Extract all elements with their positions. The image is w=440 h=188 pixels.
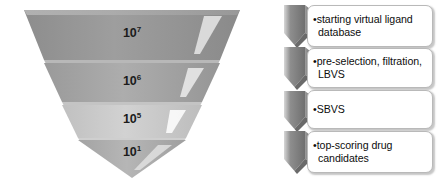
- stage-box-3[interactable]: •SBVS: [307, 90, 433, 129]
- stage-2-line-1: pre-selection,: [317, 55, 380, 67]
- funnel-tier-1-exponent: 7: [137, 25, 141, 34]
- stage-box-2[interactable]: •pre-selection, filtration, LBVS: [307, 48, 433, 88]
- stage-2-text: •pre-selection, filtration, LBVS: [313, 55, 428, 81]
- funnel-tier-3-base: 10: [123, 112, 137, 126]
- funnel-tier-2-label: 106: [123, 75, 141, 88]
- funnel-tier-3-exponent: 5: [137, 111, 141, 120]
- compound-count-funnel: 107 106 105 101: [16, 2, 248, 186]
- stage-3-text: •SBVS: [313, 103, 345, 116]
- stage-4-line-1: top-scoring drug: [317, 139, 393, 151]
- funnel-tier-3-label: 105: [123, 113, 141, 126]
- screening-stage-list: •starting virtual ligand database •pre-s…: [283, 3, 435, 185]
- stage-box-1[interactable]: •starting virtual ligand database: [307, 5, 433, 47]
- stage-box-4[interactable]: •top-scoring drug candidates: [307, 131, 433, 173]
- funnel-tier-4-base: 10: [123, 145, 137, 159]
- stage-1-text: •starting virtual ligand database: [313, 13, 428, 39]
- stage-1-line-1: starting virtual: [317, 13, 382, 25]
- stage-4-line-2: candidates: [318, 152, 369, 164]
- funnel-tier-1-base: 10: [123, 26, 137, 40]
- funnel-tier-1-label: 107: [123, 27, 141, 40]
- stage-3-line-1: SBVS: [317, 103, 345, 115]
- funnel-tier-2-exponent: 6: [137, 73, 141, 82]
- virtual-screening-funnel-diagram: 107 106 105 101: [0, 0, 440, 188]
- funnel-tier-4-label: 101: [123, 146, 141, 159]
- funnel-tier-4-exponent: 1: [137, 144, 141, 153]
- stage-4-text: •top-scoring drug candidates: [313, 139, 428, 165]
- funnel-tier-2-base: 10: [123, 74, 137, 88]
